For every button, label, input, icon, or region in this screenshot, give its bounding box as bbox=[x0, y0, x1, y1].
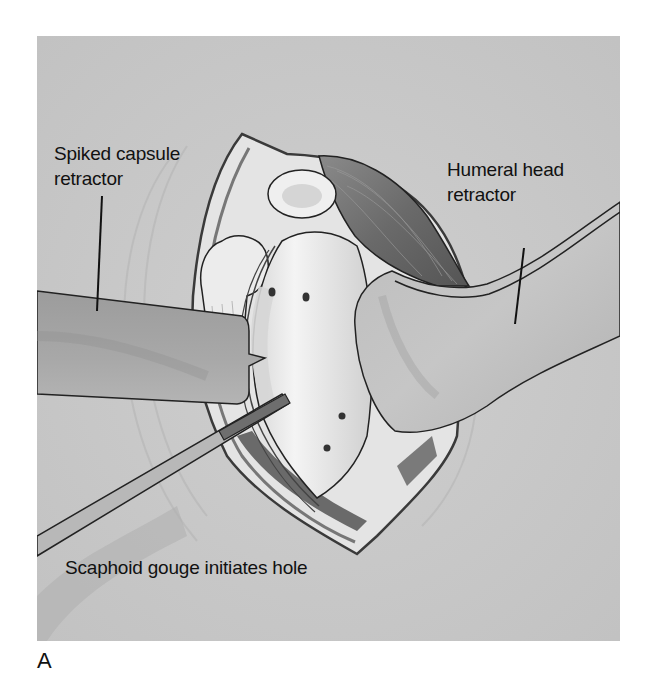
figure-panel: Spiked capsule retractor Humeral head re… bbox=[37, 36, 620, 641]
surgical-illustration bbox=[37, 36, 620, 641]
label-humeral-head-retractor: Humeral head retractor bbox=[447, 157, 564, 207]
label-line: retractor bbox=[54, 166, 180, 191]
label-line: Humeral head bbox=[447, 157, 564, 182]
label-spiked-capsule-retractor: Spiked capsule retractor bbox=[54, 141, 180, 191]
panel-letter: A bbox=[37, 648, 52, 674]
label-line: retractor bbox=[447, 182, 564, 207]
label-line: Spiked capsule bbox=[54, 141, 180, 166]
label-scaphoid-gouge: Scaphoid gouge initiates hole bbox=[65, 555, 307, 580]
